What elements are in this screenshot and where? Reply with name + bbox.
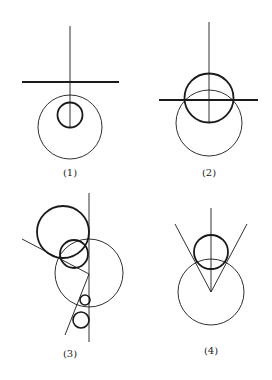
diagram-canvas	[0, 0, 272, 380]
v-line-left	[175, 224, 211, 292]
figure-4	[175, 208, 247, 325]
figure-1-label: (1)	[63, 167, 77, 178]
small-thick-circle	[73, 312, 89, 328]
v-line-right	[211, 224, 247, 292]
figure-2	[159, 22, 258, 156]
figure-1	[22, 26, 119, 159]
figure-3	[22, 193, 123, 342]
figure-3-label: (3)	[63, 348, 77, 359]
medium-thick-circle	[60, 240, 88, 268]
figure-2-label: (2)	[202, 167, 216, 178]
figure-4-label: (4)	[204, 345, 218, 356]
tiny-thick-circle	[80, 295, 90, 305]
large-thick-circle	[37, 206, 89, 258]
